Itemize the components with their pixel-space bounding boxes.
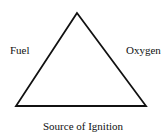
fire-triangle	[0, 0, 168, 136]
label-oxygen: Oxygen	[126, 44, 161, 56]
label-fuel: Fuel	[10, 44, 30, 56]
label-source-of-ignition: Source of Ignition	[43, 120, 123, 132]
triangle-shape	[16, 13, 146, 106]
